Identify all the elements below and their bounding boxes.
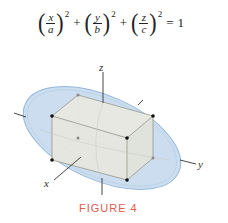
numerator: z <box>141 12 147 23</box>
z-axis-label: z <box>99 61 103 73</box>
fraction-y-over-b: y b <box>93 12 102 35</box>
exponent: 2 <box>158 9 163 19</box>
exponent: 2 <box>65 9 70 19</box>
numerator: x <box>47 12 54 23</box>
left-paren: ( <box>131 10 138 35</box>
ellipsoid-box-diagram <box>0 55 228 200</box>
y-axis-label: y <box>198 158 203 170</box>
y-axis <box>180 160 196 164</box>
denominator: b <box>94 24 102 35</box>
exponent: 2 <box>111 9 116 19</box>
right-hand-side: 1 <box>178 15 185 31</box>
left-paren: ( <box>85 10 92 35</box>
plus-sign: + <box>120 15 127 31</box>
numerator: y <box>94 12 101 23</box>
figure-caption: FIGURE 4 <box>79 202 138 214</box>
fraction-z-over-c: z c <box>139 12 148 35</box>
neg-x-axis <box>138 100 143 105</box>
denominator: a <box>47 24 55 35</box>
right-paren: ) <box>103 10 110 35</box>
right-paren: ) <box>56 10 63 35</box>
right-paren: ) <box>149 10 156 35</box>
left-paren: ( <box>38 10 45 35</box>
ellipsoid-equation: ( x a ) 2 + ( y b ) 2 + ( z c ) 2 = 1 <box>38 8 184 38</box>
equals-sign: = <box>166 15 173 31</box>
x-axis-label: x <box>44 177 49 189</box>
denominator: c <box>140 24 147 35</box>
plus-sign: + <box>73 15 80 31</box>
fraction-x-over-a: x a <box>46 12 55 35</box>
